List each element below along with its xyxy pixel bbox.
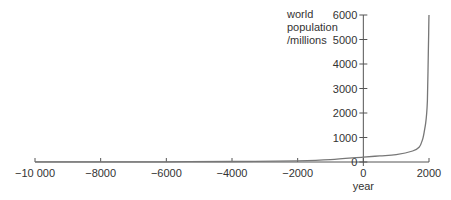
y-axis: 0100020003000400050006000	[333, 9, 367, 168]
y-tick-label: 2000	[333, 107, 357, 119]
y-tick-label: 4000	[333, 58, 357, 70]
y-axis-title: worldpopulation/millions	[286, 8, 338, 46]
x-tick-label: −4000	[217, 167, 248, 179]
y-tick-label: 1000	[333, 132, 357, 144]
y-tick-label: 5000	[333, 34, 357, 46]
x-tick-label: −8000	[85, 167, 116, 179]
population-chart: −10 000−8000−6000−4000−200002000 0100020…	[0, 0, 451, 200]
x-tick-label: −10 000	[15, 167, 55, 179]
x-tick-label: 0	[360, 167, 366, 179]
population-curve	[35, 15, 429, 162]
x-tick-label: −2000	[282, 167, 313, 179]
y-tick-label: 3000	[333, 83, 357, 95]
x-axis-title: year	[353, 180, 375, 192]
x-tick-label: 2000	[417, 167, 441, 179]
x-tick-label: −6000	[151, 167, 182, 179]
y-tick-label: 6000	[333, 9, 357, 21]
